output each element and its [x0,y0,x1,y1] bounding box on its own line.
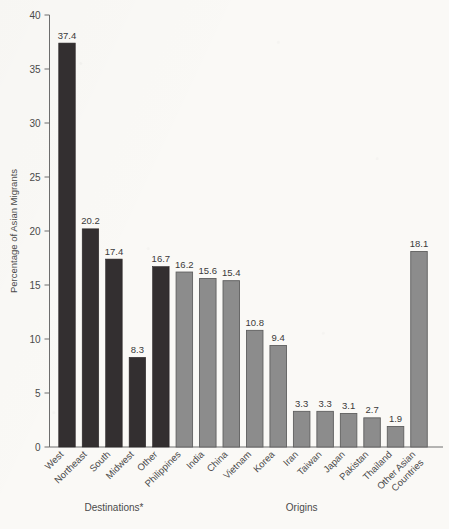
bar-value-label: 8.3 [131,344,144,355]
bar-value-label: 10.8 [245,317,264,328]
y-axis-tick-label: 0 [35,442,41,453]
category-label: Iran [281,449,300,468]
bar-value-label: 3.3 [319,398,332,409]
axis-group-label: Destinations* [84,502,143,513]
y-axis-tick-label: 15 [29,280,41,291]
chart-canvas: 0510152025303540 37.420.217.48.316.716.2… [0,0,449,529]
bar-value-label: 3.3 [295,398,308,409]
bar-value-label: 3.1 [342,400,355,411]
bar-value-label: 17.4 [105,246,124,257]
y-axis-tick-label: 10 [29,334,41,345]
y-axis-tick-label: 40 [29,10,41,21]
bar [270,345,287,447]
bar [129,357,146,447]
category-label-line: India [184,448,207,471]
bar [364,418,381,447]
bar [246,330,263,447]
bar [176,272,193,447]
axis-group-labels: Destinations*Origins [84,502,317,513]
bar-value-label: 2.7 [365,404,378,415]
bar-value-label: 16.7 [152,253,171,264]
y-axis-tick-label: 30 [29,118,41,129]
bar [317,411,334,447]
bar [411,252,428,447]
bar [223,281,240,447]
bar [82,229,99,447]
y-axis-title-text: Percentage of Asian Migrants [8,169,19,293]
axis-group-label: Origins [286,502,318,513]
bar [387,426,404,447]
bar-value-label: 16.2 [175,259,194,270]
category-label: Korea [251,448,277,474]
bar-value-label: 37.4 [58,30,77,41]
bar-value-label: 15.6 [199,265,218,276]
bar [59,43,76,447]
bar-value-label: 1.9 [389,413,402,424]
category-label-line: Taiwan [295,449,324,478]
category-label-line: Iran [281,449,300,468]
y-axis-tick-label: 35 [29,64,41,75]
bar [340,414,357,447]
bar [293,411,310,447]
bar-value-label: 15.4 [222,267,241,278]
category-label-line: Korea [251,448,277,474]
bar [200,279,217,447]
y-axis-tick-label: 5 [35,388,41,399]
category-label: Taiwan [295,449,324,478]
y-axis-title: Percentage of Asian Migrants [8,169,19,293]
bar [106,259,123,447]
bar-chart-figure: 0510152025303540 37.420.217.48.316.716.2… [0,0,449,529]
bar [153,267,170,447]
bar-value-label: 18.1 [410,238,429,249]
bar-value-label: 9.4 [272,332,285,343]
bar-value-label: 20.2 [81,215,100,226]
category-axis-labels: WestNortheastSouthMidwestOtherPhilippine… [42,448,425,500]
category-label: India [184,448,207,471]
y-axis-tick-label: 20 [29,226,41,237]
y-axis-tick-label: 25 [29,172,41,183]
